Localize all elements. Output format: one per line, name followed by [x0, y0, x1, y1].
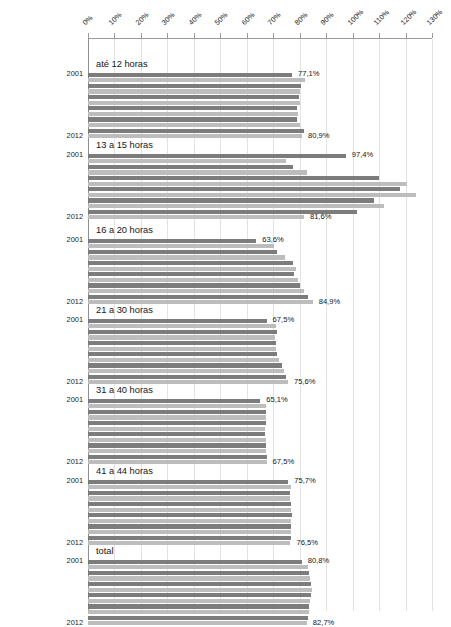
bar [88, 369, 284, 373]
bar [88, 129, 304, 133]
bar [88, 335, 275, 339]
x-tick-label: 50% [213, 10, 230, 27]
x-tick-label: 30% [160, 10, 177, 27]
bar [88, 588, 312, 592]
bar-value-label: 75,6% [294, 377, 316, 386]
bar [88, 455, 267, 459]
bar [88, 176, 379, 180]
x-tick-mark [88, 33, 89, 38]
bar [88, 604, 309, 608]
x-tick-mark [300, 33, 301, 38]
bar [88, 278, 298, 282]
x-tick-mark [194, 33, 195, 38]
bar [88, 117, 297, 121]
bar [88, 204, 384, 208]
bar [88, 375, 286, 379]
bar [88, 250, 277, 254]
bar [88, 519, 291, 523]
bar-group-bars: 77,1%80,9% [88, 72, 432, 139]
bar-group-label: 16 a 20 horas [96, 225, 153, 235]
bar [88, 255, 285, 259]
bar [88, 530, 291, 534]
x-tick-mark [406, 33, 407, 38]
year-axis-label: 2012 [53, 618, 83, 627]
bar-row: 80,9% [88, 134, 432, 140]
bar [88, 324, 276, 328]
x-tick-label: 40% [186, 10, 203, 27]
bar [88, 496, 290, 500]
plot-area: até 12 horas77,1%80,9%13 a 15 horas97,4%… [88, 39, 432, 611]
year-axis-label: 2001 [53, 150, 83, 159]
year-axis-label: 2001 [53, 315, 83, 324]
bar [88, 541, 290, 545]
x-tick-label: 120% [398, 7, 418, 27]
bar [88, 363, 282, 367]
year-axis-label: 2001 [53, 476, 83, 485]
bar-row: 82,7% [88, 621, 432, 627]
bar [88, 101, 300, 105]
bar-value-label: 67,5% [273, 457, 295, 466]
bar [88, 502, 291, 506]
bar [88, 78, 305, 82]
x-tick-mark [353, 33, 354, 38]
bar [88, 134, 302, 138]
bar [88, 239, 256, 243]
bar [88, 524, 291, 528]
bar [88, 560, 302, 564]
year-axis-label: 2001 [53, 395, 83, 404]
bar [88, 341, 276, 345]
bar-group-label: 13 a 15 horas [96, 140, 153, 150]
year-axis-label: 2012 [53, 297, 83, 306]
year-axis-label: 2001 [53, 235, 83, 244]
bar [88, 536, 291, 540]
bar [88, 610, 309, 614]
bar [88, 347, 276, 351]
bar [88, 165, 293, 169]
bar [88, 621, 307, 625]
year-axis-label: 2001 [53, 69, 83, 78]
bar [88, 106, 297, 110]
x-tick-mark [114, 33, 115, 38]
bar [88, 427, 265, 431]
bar-value-label: 76,5% [296, 538, 318, 547]
x-tick-mark [273, 33, 274, 38]
bar [88, 84, 301, 88]
bar [88, 513, 292, 517]
bar [88, 261, 293, 265]
year-axis-label: 2012 [53, 377, 83, 386]
year-axis-label: 2012 [53, 538, 83, 547]
bar [88, 421, 266, 425]
bar [88, 565, 308, 569]
bar-row: 81,6% [88, 215, 432, 221]
x-tick-mark [432, 33, 433, 38]
bar-group-label: até 12 horas [96, 59, 148, 69]
bar [88, 380, 288, 384]
bar [88, 480, 288, 484]
bar [88, 300, 313, 304]
bar-group-label: 21 a 30 horas [96, 305, 153, 315]
bar-group-bars: 80,8%82,7% [88, 559, 432, 626]
bar [88, 187, 400, 191]
bar [88, 571, 309, 575]
bar-row: 67,5% [88, 460, 432, 466]
bar-value-label: 84,9% [319, 297, 341, 306]
bar-group-bars: 97,4%81,6% [88, 153, 432, 220]
bar [88, 432, 265, 436]
bar [88, 415, 266, 419]
bar-group-label: total [96, 546, 114, 556]
bar [88, 272, 294, 276]
bar-value-label: 81,6% [310, 212, 332, 221]
bar [88, 95, 299, 99]
bar [88, 599, 310, 603]
bar [88, 443, 266, 447]
bar [88, 123, 300, 127]
bar [88, 244, 274, 248]
bar-value-label: 82,7% [313, 618, 335, 627]
x-tick-mark [167, 33, 168, 38]
bar-group-label: 31 a 40 horas [96, 385, 153, 395]
bar-group-bars: 63,6%84,9% [88, 238, 432, 305]
bar [88, 616, 308, 620]
bar [88, 182, 407, 186]
bar [88, 449, 266, 453]
bar [88, 73, 292, 77]
